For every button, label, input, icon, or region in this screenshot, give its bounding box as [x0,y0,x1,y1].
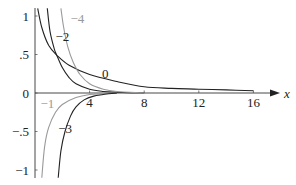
y-tick-label: −.5 [12,124,29,139]
x-tick-label: 16 [247,95,261,110]
x-axis-label: x [283,86,290,101]
chart: x 4812161.50−.5−1 0−2−4−1−3 [0,0,296,185]
curve-label: 0 [102,66,109,81]
x-tick-label: 12 [192,95,205,110]
y-tick-label: 1 [23,9,30,24]
x-axis-arrow-icon [270,90,280,97]
y-tick-label: 0 [23,86,30,101]
curve-label: −3 [58,121,72,136]
curve-label: −4 [70,11,84,26]
curve-label: −2 [55,29,69,44]
curve-label: −1 [40,96,54,111]
y-tick-label: .5 [19,47,29,62]
axes: x [35,8,290,178]
x-tick-label: 8 [141,95,148,110]
curve-minus-2 [47,8,144,93]
y-tick-label: −1 [15,163,29,178]
curve-labels: 0−2−4−1−3 [40,11,108,136]
